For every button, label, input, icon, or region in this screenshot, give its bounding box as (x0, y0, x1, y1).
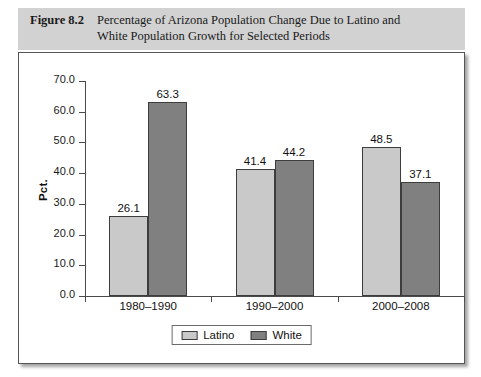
y-tick: 30.0 (79, 204, 85, 205)
bar-latino-2: 48.5 (362, 147, 401, 296)
y-tick: 50.0 (79, 142, 85, 143)
bar-value-label: 37.1 (409, 168, 431, 180)
bar-white-0: 63.3 (148, 102, 187, 296)
y-tick-label: 70.0 (54, 73, 75, 85)
figure-header-band: Figure 8.2 Percentage of Arizona Populat… (18, 8, 465, 50)
y-tick-label: 20.0 (54, 227, 75, 239)
bar-value-label: 41.4 (244, 155, 266, 167)
x-tick (85, 296, 86, 302)
legend-swatch-latino (181, 331, 197, 340)
legend-label-white: White (272, 329, 301, 341)
legend-swatch-white (250, 331, 266, 340)
bar-latino-0: 26.1 (109, 216, 148, 296)
y-tick-label: 40.0 (54, 165, 75, 177)
bar-value-label: 48.5 (370, 133, 392, 145)
bar-value-label: 63.3 (156, 88, 178, 100)
category-label-2: 2000–2008 (372, 300, 430, 312)
bar-white-2: 37.1 (401, 182, 440, 296)
x-tick (338, 296, 339, 302)
legend-item-white[interactable]: White (250, 329, 301, 341)
x-axis-line (85, 296, 464, 297)
y-tick-label: 10.0 (54, 257, 75, 269)
category-label-1: 1990–2000 (246, 300, 304, 312)
y-tick-label: 0.0 (60, 288, 75, 300)
bar-white-1: 44.2 (275, 160, 314, 296)
x-tick (464, 296, 465, 302)
figure-title-line-2: White Population Growth for Selected Per… (97, 29, 457, 45)
legend-item-latino[interactable]: Latino (181, 329, 234, 341)
y-tick: 70.0 (79, 81, 85, 82)
y-tick-label: 30.0 (54, 196, 75, 208)
bar-value-label: 44.2 (283, 146, 305, 158)
figure-number-label: Figure 8.2 (30, 13, 84, 28)
y-tick: 40.0 (79, 173, 85, 174)
figure-caption: Figure 8.2 Percentage of Arizona Populat… (30, 13, 457, 44)
y-tick: 20.0 (79, 235, 85, 236)
y-tick: 60.0 (79, 112, 85, 113)
y-tick: 10.0 (79, 265, 85, 266)
plot-area: 0.010.020.030.040.050.060.070.0 26.163.3… (85, 81, 464, 296)
y-tick-label: 60.0 (54, 104, 75, 116)
chart-legend: LatinoWhite (171, 325, 312, 345)
figure-title: Percentage of Arizona Population Change … (97, 13, 457, 44)
figure-title-line-1: Percentage of Arizona Population Change … (97, 13, 400, 27)
chart-frame: Pct. 0.010.020.030.040.050.060.070.0 26.… (18, 52, 465, 364)
y-tick-label: 50.0 (54, 134, 75, 146)
bar-value-label: 26.1 (117, 202, 139, 214)
category-label-0: 1980–1990 (119, 300, 177, 312)
y-axis-line (85, 81, 86, 296)
bar-latino-1: 41.4 (236, 169, 275, 296)
y-axis-title: Pct. (37, 179, 49, 201)
legend-label-latino: Latino (203, 329, 234, 341)
x-tick (211, 296, 212, 302)
